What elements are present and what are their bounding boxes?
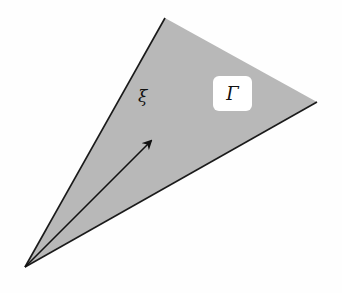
gamma-label: Γ bbox=[226, 83, 239, 104]
cone-figure bbox=[0, 0, 342, 293]
cone-region bbox=[25, 18, 317, 267]
gamma-label-box: Γ bbox=[213, 76, 252, 111]
xi-label: ξ bbox=[138, 86, 147, 106]
cone-diagram: ξ Γ bbox=[0, 0, 342, 293]
